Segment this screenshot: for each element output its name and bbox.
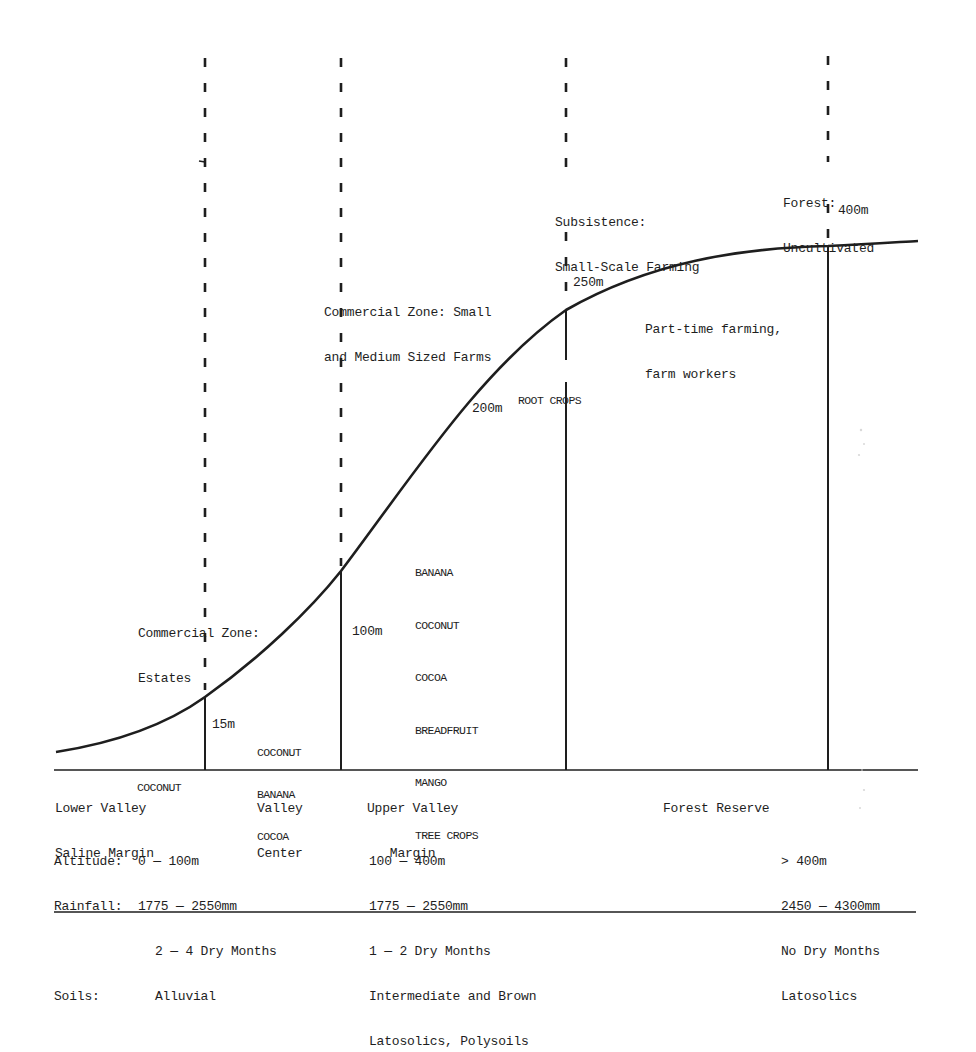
conditions-lowland-labels: Altitude: Rainfall: Soils: (54, 824, 122, 1019)
tick-mark (199, 161, 205, 162)
condition-value: 1775 — 2550mm (369, 899, 536, 914)
altitude-200m: 200m (472, 401, 502, 416)
condition-label: Altitude: (54, 854, 122, 869)
condition-value: Alluvial (138, 989, 277, 1004)
conditions-upland: 100 — 400m 1775 — 2550mm 1 — 2 Dry Month… (369, 824, 536, 1052)
zone-header-line: and Medium Sized Farms (324, 350, 491, 365)
zone-header-commercial-small-medium: Commercial Zone: Small and Medium Sized … (324, 275, 491, 380)
part-time-farming-note: Part-time farming, farm workers (645, 292, 782, 397)
crop-item: BANANA (415, 564, 478, 582)
crops-subsistence: ROOT CROPS (518, 366, 581, 422)
condition-label: Rainfall: (54, 899, 122, 914)
zone-header-line: Subsistence: (555, 215, 699, 230)
condition-label (54, 944, 122, 959)
crop-item: BREADFRUIT (415, 722, 478, 740)
condition-value: 2 — 4 Dry Months (138, 944, 277, 959)
crop-item: COCONUT (415, 617, 478, 635)
crop-item: ROOT CROPS (518, 394, 581, 408)
zone-header-line: Uncultivated (783, 241, 874, 256)
altitude-15m: 15m (212, 717, 235, 732)
altitude-250m: 250m (573, 275, 603, 290)
zone-header-line: Small-Scale Farming (555, 260, 699, 275)
condition-value: Latosolics, Polysoils (369, 1034, 536, 1049)
zone-header-forest: Forest: Uncultivated (783, 166, 874, 271)
condition-value: 1 — 2 Dry Months (369, 944, 536, 959)
zone-header-line: Commercial Zone: (138, 626, 260, 641)
altitude-400m: 400m (838, 203, 868, 218)
note-line: Part-time farming, (645, 322, 782, 337)
zone-header-line: Estates (138, 671, 260, 686)
region-line: Upper Valley (367, 801, 458, 816)
condition-value: 0 — 100m (138, 854, 277, 869)
region-forest-reserve: Forest Reserve (663, 771, 769, 831)
conditions-lowland-values: 0 — 100m 1775 — 2550mm 2 — 4 Dry Months … (138, 824, 277, 1019)
condition-value: 2450 — 4300mm (781, 899, 880, 914)
condition-label: Soils: (54, 989, 122, 1004)
altitude-100m: 100m (352, 624, 382, 639)
region-line: Valley (257, 801, 303, 816)
condition-value: 1775 — 2550mm (138, 899, 277, 914)
condition-value: Latosolics (781, 989, 880, 1004)
zone-header-line: Commercial Zone: Small (324, 305, 491, 320)
condition-value: 100 — 400m (369, 854, 536, 869)
condition-value: Intermediate and Brown (369, 989, 536, 1004)
condition-value: > 400m (781, 854, 880, 869)
note-line: farm workers (645, 367, 782, 382)
crop-item: COCONUT (257, 746, 301, 760)
region-line: Forest Reserve (663, 801, 769, 816)
conditions-forest: > 400m 2450 — 4300mm No Dry Months Latos… (781, 824, 880, 1019)
zone-header-commercial-estates: Commercial Zone: Estates (138, 596, 260, 701)
region-line: Lower Valley (55, 801, 154, 816)
crop-item: COCOA (415, 669, 478, 687)
condition-value: No Dry Months (781, 944, 880, 959)
